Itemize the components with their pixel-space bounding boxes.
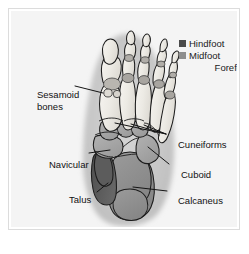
joint-mtp-5 xyxy=(165,91,175,99)
joint-mtp-1 xyxy=(104,78,121,90)
bone-phalanx-hallux-distal xyxy=(103,39,119,64)
label-sesamoid-line2: bones xyxy=(37,101,103,113)
legend-item-midfoot: Midfoot xyxy=(179,50,237,61)
bone-metatarsal-2 xyxy=(120,76,136,130)
joint-pip-2 xyxy=(125,55,134,62)
joint-mtp-4 xyxy=(154,80,165,88)
joint-pip-4 xyxy=(157,61,165,67)
legend-swatch-hindfoot xyxy=(179,40,186,47)
legend-label-hindfoot: Hindfoot xyxy=(189,38,224,49)
joint-mtp-2 xyxy=(122,73,134,82)
label-sesamoid-bones: Sesamoid bones xyxy=(37,89,103,112)
legend-item-hindfoot: Hindfoot xyxy=(179,38,237,49)
bone-sesamoid-lateral xyxy=(113,90,121,97)
joint-pip-3 xyxy=(141,57,149,63)
figure-root: Hindfoot Midfoot Forefoot Sesamoid bones… xyxy=(0,0,249,254)
label-talus: Talus xyxy=(69,194,91,206)
label-cuboid: Cuboid xyxy=(181,169,211,181)
legend-swatch-midfoot xyxy=(179,52,186,59)
legend-label-forefoot: Forefoot xyxy=(215,62,237,73)
joint-mtp-3 xyxy=(138,76,149,85)
legend: Hindfoot Midfoot Forefoot xyxy=(179,38,237,74)
legend-item-forefoot: Forefoot xyxy=(179,62,237,73)
label-calcaneus: Calcaneus xyxy=(178,195,223,207)
label-navicular: Navicular xyxy=(49,159,89,171)
legend-label-midfoot: Midfoot xyxy=(189,50,220,61)
bone-phalanx-3-distal xyxy=(143,34,151,47)
bone-phalanx-2-distal xyxy=(127,31,135,45)
bone-sesamoid-medial xyxy=(104,89,112,97)
label-cuneiforms: Cuneiforms xyxy=(178,139,227,151)
bone-metatarsal-3 xyxy=(135,78,151,130)
bone-calcaneus-tuberosity xyxy=(113,189,148,220)
joint-pip-5 xyxy=(169,72,176,78)
legend-swatch-forefoot xyxy=(205,64,212,71)
radiograph-plate: Hindfoot Midfoot Forefoot Sesamoid bones… xyxy=(11,11,237,227)
label-sesamoid-line1: Sesamoid xyxy=(37,89,103,101)
